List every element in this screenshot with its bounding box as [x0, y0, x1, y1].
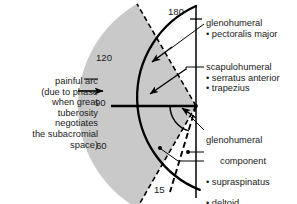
diagram-canvas: 180 120 90 60 15 painful arc (due to pha… — [0, 0, 297, 204]
annotation-glenohumeral-component: glenohumeral component • supraspinatus •… — [206, 124, 270, 204]
tick-label-15: 15 — [154, 184, 165, 195]
glenohumeral-component-leader — [190, 116, 204, 130]
annotation-ghc-line3: • supraspinatus — [206, 177, 270, 188]
painful-arc-caption: painful arc (due to phase when great tub… — [6, 76, 98, 150]
annotation-glenohumeral: glenohumeral • pectoralis major — [206, 18, 277, 39]
scapulohumeral-leader — [186, 67, 204, 70]
annotation-ghc-line2: component — [206, 156, 270, 167]
annotation-scapulohumeral: scapulohumeral • serratus anterior • tra… — [206, 62, 280, 94]
annotation-ghc-line1: glenohumeral — [206, 135, 270, 146]
tick-label-180: 180 — [168, 6, 184, 17]
tick-label-120: 120 — [96, 52, 112, 63]
glenohumeral-leader — [170, 24, 204, 49]
annotation-ghc-line4: • deltoid — [206, 198, 270, 204]
pivot-point — [194, 104, 198, 108]
